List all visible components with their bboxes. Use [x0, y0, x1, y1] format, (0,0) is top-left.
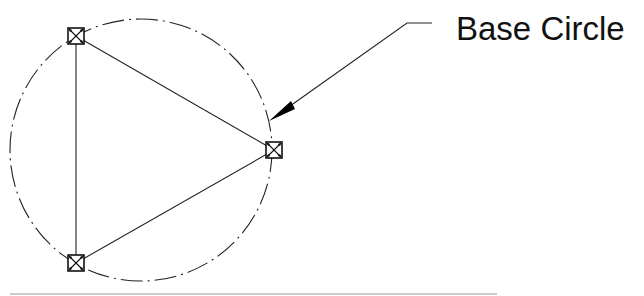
node-top [68, 28, 84, 44]
arrowhead-icon [269, 101, 295, 121]
node-dot-icon [267, 154, 269, 156]
base-circle-label: Base Circle [456, 10, 625, 47]
base-circle [10, 19, 272, 281]
triangle [76, 36, 274, 263]
node-dot-icon [69, 267, 71, 269]
node-dot-icon [69, 40, 71, 42]
leader [269, 23, 432, 121]
node-dot-icon [80, 256, 82, 258]
base-circle-diagram: Base Circle [0, 0, 644, 296]
node-dot-icon [80, 267, 82, 269]
node-dot-icon [278, 154, 280, 156]
edge-top-right [76, 36, 274, 150]
node-dot-icon [80, 40, 82, 42]
node-bottom [68, 255, 84, 271]
leader-line [283, 23, 432, 111]
node-dot-icon [80, 29, 82, 31]
edge-right-bottom [76, 150, 274, 263]
node-dot-icon [278, 143, 280, 145]
node-dot-icon [267, 143, 269, 145]
node-dot-icon [69, 29, 71, 31]
node-dot-icon [69, 256, 71, 258]
node-right [266, 142, 282, 158]
